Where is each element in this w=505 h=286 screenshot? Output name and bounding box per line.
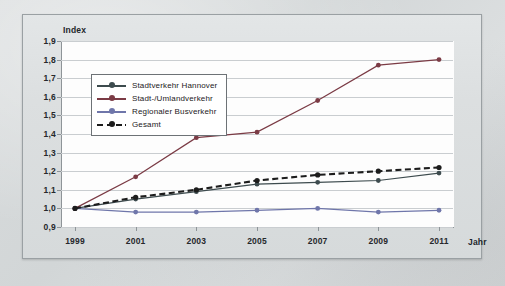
x-axis-label: 2009 [368,236,388,246]
x-axis-tick [75,227,76,231]
data-point [255,208,260,213]
legend-marker-dot [109,108,115,114]
y-axis-label: 1,3 [44,148,56,158]
chart-panel: Index Jahr 0,91,01,11,21,31,41,51,61,71,… [22,14,482,259]
data-point [376,178,381,183]
data-point [437,208,442,213]
data-point [376,169,381,174]
legend-item: Regionaler Busverkehr [97,105,217,118]
data-point [315,98,320,103]
series-line [75,167,439,208]
legend-swatch-icon [97,80,126,91]
data-point [437,171,442,176]
x-axis-label: 2005 [247,236,267,246]
data-point [194,135,199,140]
data-point [315,206,320,211]
y-axis-tick [57,227,61,228]
y-axis-label: 1,6 [44,92,56,102]
y-axis-label: 1,7 [44,73,56,83]
data-point [72,206,77,211]
legend-marker-dot [109,95,115,101]
data-point [133,195,138,200]
x-axis-label: 2007 [308,236,328,246]
data-point [255,130,260,135]
y-axis-label: 1,4 [44,129,56,139]
x-axis-tick [136,227,137,231]
y-axis-label: 1,1 [44,185,56,195]
x-axis-label: 2003 [186,236,206,246]
data-point [315,172,320,177]
data-point [376,63,381,68]
data-point [376,210,381,215]
legend-swatch-icon [97,93,126,104]
data-point [437,57,442,62]
legend-swatch-icon [97,106,126,117]
legend-label: Stadt-/Umlandverkehr [132,94,213,103]
data-point [194,187,199,192]
y-axis-title: Index [63,25,86,35]
data-point [436,165,441,170]
y-axis-label: 1,2 [44,166,56,176]
x-axis-label: 2011 [429,236,448,246]
x-axis-label: 1999 [65,236,85,246]
legend-item: Stadtverkehr Hannover [97,79,217,92]
legend-label: Gesamt [132,120,161,129]
y-axis-label: 1,5 [44,110,56,120]
y-axis-label: 1,8 [44,55,56,65]
legend-swatch-icon [97,119,126,130]
legend-marker-dot [109,82,115,88]
data-point [194,210,199,215]
legend-item: Gesamt [97,118,217,131]
x-axis-label: 2001 [126,236,146,246]
legend-marker-dot [109,121,115,127]
legend-item: Stadt-/Umlandverkehr [97,92,217,105]
data-point [133,174,138,179]
data-point [254,178,259,183]
data-point [133,210,138,215]
x-axis-tick [196,227,197,231]
y-axis-label: 0,9 [44,222,56,232]
x-axis-title: Jahr [468,237,487,247]
x-axis-tick [439,227,440,231]
legend-label: Regionaler Busverkehr [132,107,217,116]
legend-label: Stadtverkehr Hannover [132,81,217,90]
scanned-page-background: Index Jahr 0,91,01,11,21,31,41,51,61,71,… [0,0,505,286]
data-point [315,180,320,185]
y-axis-label: 1,9 [44,36,56,46]
y-axis-label: 1,0 [44,203,56,213]
chart-legend: Stadtverkehr HannoverStadt-/Umlandverkeh… [91,74,227,136]
x-axis-tick [378,227,379,231]
x-axis-tick [318,227,319,231]
x-axis-tick [257,227,258,231]
